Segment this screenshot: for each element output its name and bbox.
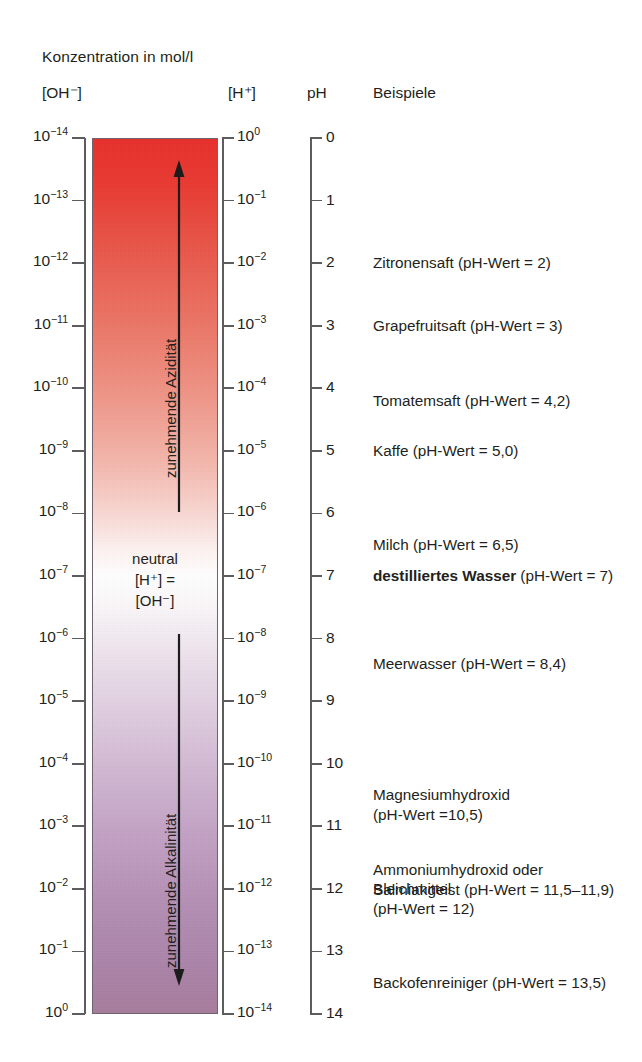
oh-tick-label-2: 10−12 bbox=[0, 252, 68, 270]
ph-tick-label-12: 12 bbox=[326, 879, 343, 897]
ph-tick-label-10: 10 bbox=[326, 754, 343, 772]
oh-tick-label-1: 10−13 bbox=[0, 190, 68, 208]
oh-tick-0 bbox=[72, 137, 85, 139]
oh-tick-label-5: 10−9 bbox=[0, 440, 68, 458]
h-tick-label-6: 10−6 bbox=[237, 502, 266, 520]
example-item: Zitronensaft (pH-Wert = 2) bbox=[373, 253, 551, 273]
example-item: Grapefruitsaft (pH-Wert = 3) bbox=[373, 316, 563, 336]
h-tick-label-12: 10−12 bbox=[237, 878, 272, 896]
ph-tick-label-5: 5 bbox=[326, 441, 335, 459]
h-tick-label-13: 10−13 bbox=[237, 940, 272, 958]
oh-tick-label-4: 10−10 bbox=[0, 377, 68, 395]
h-tick-2 bbox=[222, 262, 234, 264]
h-tick-label-1: 10−1 bbox=[237, 190, 266, 208]
h-tick-label-7: 10−7 bbox=[237, 565, 266, 583]
ph-tick-label-4: 4 bbox=[326, 378, 335, 396]
example-item: Backofenreiniger (pH-Wert = 13,5) bbox=[373, 973, 606, 993]
ph-tick-6 bbox=[310, 513, 322, 515]
example-item: Kaffe (pH-Wert = 5,0) bbox=[373, 441, 518, 461]
ph-tick-2 bbox=[310, 262, 322, 264]
ph-tick-0 bbox=[310, 137, 322, 139]
oh-tick-label-3: 10−11 bbox=[0, 315, 68, 333]
ph-tick-10 bbox=[310, 763, 322, 765]
h-tick-1 bbox=[222, 200, 234, 202]
h-tick-0 bbox=[222, 137, 234, 139]
ph-tick-11 bbox=[310, 825, 322, 827]
example-item: Milch (pH-Wert = 6,5) bbox=[373, 535, 519, 555]
h-tick-13 bbox=[222, 951, 234, 953]
ph-tick-label-3: 3 bbox=[326, 316, 335, 334]
h-tick-5 bbox=[222, 450, 234, 452]
increasing-alkalinity-arrow bbox=[172, 634, 186, 986]
ph-tick-1 bbox=[310, 200, 322, 202]
h-tick-label-4: 10−4 bbox=[237, 377, 266, 395]
h-tick-label-5: 10−5 bbox=[237, 440, 266, 458]
ph-tick-label-0: 0 bbox=[326, 128, 335, 146]
neutral-line-2: [H⁺] = bbox=[92, 569, 218, 590]
h-tick-label-14: 10−14 bbox=[237, 1003, 272, 1021]
example-bold-term: destilliertes Wasser bbox=[373, 567, 516, 584]
h-tick-10 bbox=[222, 763, 234, 765]
oh-tick-13 bbox=[72, 951, 85, 953]
h-tick-label-8: 10−8 bbox=[237, 628, 266, 646]
neutral-line-1: neutral bbox=[92, 548, 218, 569]
ph-tick-label-2: 2 bbox=[326, 253, 335, 271]
h-tick-label-9: 10−9 bbox=[237, 690, 266, 708]
h-tick-12 bbox=[222, 888, 234, 890]
oh-tick-label-7: 10−7 bbox=[0, 565, 68, 583]
ph-scale-figure: Konzentration in mol/l [OH⁻] [H⁺] pH Bei… bbox=[0, 0, 642, 1062]
ph-tick-label-8: 8 bbox=[326, 629, 335, 647]
h-tick-4 bbox=[222, 387, 234, 389]
ph-tick-label-14: 14 bbox=[326, 1004, 343, 1022]
example-item: Meerwasser (pH-Wert = 8,4) bbox=[373, 654, 566, 674]
h-tick-6 bbox=[222, 513, 234, 515]
concentration-heading: Konzentration in mol/l bbox=[42, 48, 193, 66]
oh-tick-6 bbox=[72, 513, 85, 515]
h-tick-label-10: 10−10 bbox=[237, 753, 272, 771]
oh-tick-11 bbox=[72, 825, 85, 827]
oh-tick-1 bbox=[72, 200, 85, 202]
ph-tick-7 bbox=[310, 575, 322, 577]
oh-tick-10 bbox=[72, 763, 85, 765]
h-tick-7 bbox=[222, 575, 234, 577]
h-tick-11 bbox=[222, 825, 234, 827]
h-tick-9 bbox=[222, 700, 234, 702]
example-item: Magnesiumhydroxid (pH-Wert =10,5) bbox=[373, 785, 510, 825]
ph-tick-14 bbox=[310, 1013, 322, 1015]
oh-axis-heading: [OH⁻] bbox=[42, 84, 82, 102]
oh-tick-label-0: 10−14 bbox=[0, 127, 68, 145]
oh-tick-2 bbox=[72, 262, 85, 264]
ph-tick-label-1: 1 bbox=[326, 191, 335, 209]
ph-tick-5 bbox=[310, 450, 322, 452]
h-tick-3 bbox=[222, 325, 234, 327]
ph-tick-label-9: 9 bbox=[326, 691, 335, 709]
example-item: Tomatemsaft (pH-Wert = 4,2) bbox=[373, 391, 570, 411]
ph-axis-heading: pH bbox=[307, 84, 327, 102]
h-tick-14 bbox=[222, 1013, 234, 1015]
h-axis-heading: [H⁺] bbox=[228, 84, 256, 102]
oh-tick-label-6: 10−8 bbox=[0, 502, 68, 520]
oh-tick-label-14: 100 bbox=[0, 1003, 68, 1021]
increasing-acidity-arrow bbox=[172, 160, 186, 512]
oh-tick-12 bbox=[72, 888, 85, 890]
h-tick-label-3: 10−3 bbox=[237, 315, 266, 333]
example-item: destilliertes Wasser (pH-Wert = 7) bbox=[373, 566, 613, 586]
oh-tick-label-11: 10−3 bbox=[0, 815, 68, 833]
h-tick-label-2: 10−2 bbox=[237, 252, 266, 270]
oh-tick-8 bbox=[72, 638, 85, 640]
oh-tick-label-8: 10−6 bbox=[0, 628, 68, 646]
ph-tick-label-13: 13 bbox=[326, 941, 343, 959]
ph-tick-label-7: 7 bbox=[326, 566, 335, 584]
ph-tick-3 bbox=[310, 325, 322, 327]
oh-tick-5 bbox=[72, 450, 85, 452]
ph-tick-label-6: 6 bbox=[326, 503, 335, 521]
neutral-annotation: neutral [H⁺] = [OH⁻] bbox=[92, 548, 218, 611]
ph-tick-4 bbox=[310, 387, 322, 389]
ph-tick-12 bbox=[310, 888, 322, 890]
oh-tick-label-9: 10−5 bbox=[0, 690, 68, 708]
neutral-line-3: [OH⁻] bbox=[92, 590, 218, 611]
h-tick-8 bbox=[222, 638, 234, 640]
examples-heading: Beispiele bbox=[373, 84, 436, 102]
ph-tick-8 bbox=[310, 638, 322, 640]
oh-tick-label-10: 10−4 bbox=[0, 753, 68, 771]
